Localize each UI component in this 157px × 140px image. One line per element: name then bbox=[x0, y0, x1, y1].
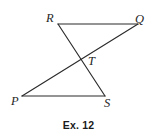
vertex-label-P: P bbox=[11, 95, 19, 108]
figure-caption: Ex. 12 bbox=[0, 119, 157, 131]
geometry-figure: R Q T P S Ex. 12 bbox=[0, 0, 157, 140]
segment-RS bbox=[58, 24, 105, 96]
vertex-label-R: R bbox=[46, 12, 54, 25]
vertex-label-T: T bbox=[88, 55, 95, 68]
vertex-label-S: S bbox=[104, 97, 110, 110]
vertex-label-Q: Q bbox=[135, 13, 144, 26]
segment-PQ bbox=[22, 24, 138, 96]
